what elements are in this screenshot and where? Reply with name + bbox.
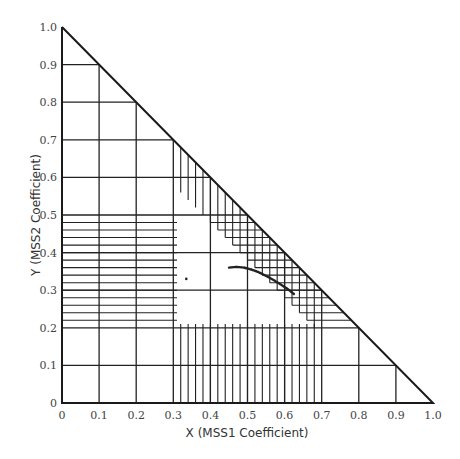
x-tick-label: 1.0: [424, 409, 442, 422]
x-tick-label: 0.5: [239, 409, 257, 422]
x-tick-label: 0.9: [387, 409, 405, 422]
y-tick-label: 1.0: [40, 21, 58, 34]
x-tick-label: 0: [59, 409, 66, 422]
x-tick-label: 0.8: [350, 409, 368, 422]
x-tick-label: 0.7: [313, 409, 331, 422]
x-tick-label: 0.2: [127, 409, 145, 422]
y-tick-label: 0.3: [40, 284, 58, 297]
x-tick-label: 0.3: [165, 409, 183, 422]
y-axis-label: Y (MSS2 Coefficient): [29, 154, 43, 277]
x-tick-label: 0.6: [276, 409, 294, 422]
ternary-grid-chart: 00.10.20.30.40.50.60.70.80.91.0 00.10.20…: [0, 0, 460, 459]
grid-lines: [62, 65, 396, 403]
x-axis-label: X (MSS1 Coefficient): [186, 426, 309, 440]
y-tick-label: 0.2: [40, 322, 58, 335]
x-tick-label: 0.1: [90, 409, 108, 422]
y-tick-label: 0: [50, 397, 57, 410]
isolated-point: [185, 278, 188, 281]
y-tick-label: 0.7: [40, 134, 58, 147]
x-tick-label: 0.4: [202, 409, 220, 422]
y-tick-label: 0.8: [40, 96, 58, 109]
y-tick-label: 0.9: [40, 59, 58, 72]
y-tick-label: 0.1: [40, 359, 58, 372]
x-axis-ticks: 00.10.20.30.40.50.60.70.80.91.0: [59, 409, 442, 422]
